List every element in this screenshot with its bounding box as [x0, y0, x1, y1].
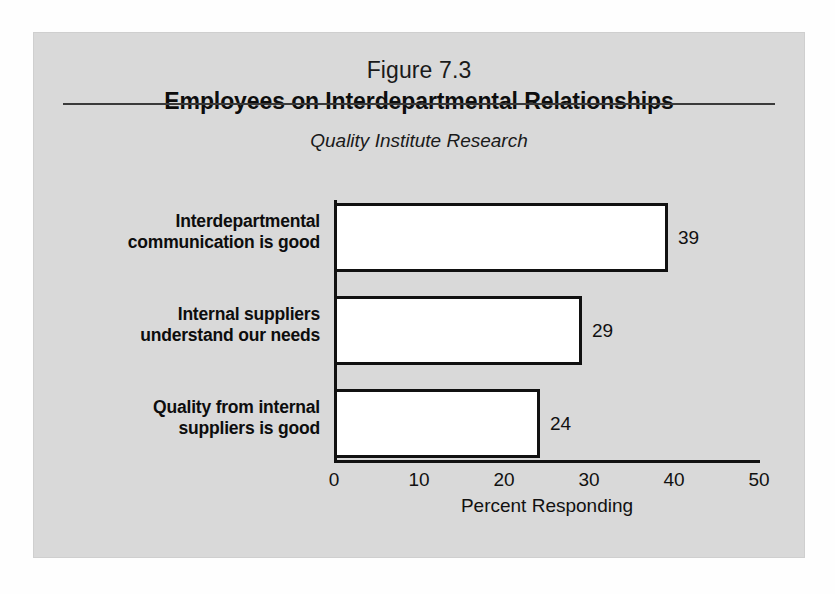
- bar-value-label: 24: [550, 414, 571, 434]
- bar-category-label: Interdepartmental communication is good: [70, 211, 320, 253]
- bar-rect: [334, 203, 668, 272]
- x-tick-label: 30: [569, 469, 609, 491]
- bar-category-line: suppliers is good: [70, 418, 320, 439]
- bar-category-line: communication is good: [70, 232, 320, 253]
- bar-rect: [334, 389, 540, 458]
- bar-category-line: Interdepartmental: [70, 211, 320, 232]
- figure-page: Figure 7.3 Employees on Interdepartmenta…: [0, 0, 835, 594]
- bar-category-line: Internal suppliers: [70, 304, 320, 325]
- bar-category-line: Quality from internal: [70, 397, 320, 418]
- x-axis-title: Percent Responding: [334, 495, 760, 517]
- bar-value-label: 29: [592, 321, 613, 341]
- figure-panel: Figure 7.3 Employees on Interdepartmenta…: [33, 32, 805, 558]
- x-tick-label: 40: [654, 469, 694, 491]
- bar-category-label: Internal suppliers understand our needs: [70, 304, 320, 346]
- bar-category-label: Quality from internal suppliers is good: [70, 397, 320, 439]
- bar-chart: Interdepartmental communication is good …: [33, 32, 805, 558]
- x-tick-label: 10: [399, 469, 439, 491]
- x-tick-label: 50: [739, 469, 779, 491]
- bar-value-label: 39: [678, 228, 699, 248]
- bar-category-line: understand our needs: [70, 325, 320, 346]
- y-axis-line: [334, 200, 337, 463]
- x-tick-label: 0: [314, 469, 354, 491]
- x-axis-line: [334, 460, 760, 463]
- x-tick-label: 20: [484, 469, 524, 491]
- bar-rect: [334, 296, 582, 365]
